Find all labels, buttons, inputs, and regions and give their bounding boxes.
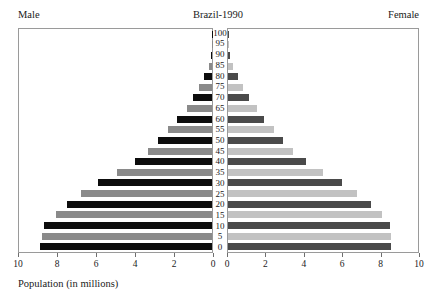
axis-tick: [304, 253, 305, 257]
male-bar-age-55: [168, 126, 212, 133]
bar-row: [19, 220, 212, 231]
bar-row: [228, 40, 418, 51]
male-bar-age-75: [199, 84, 212, 91]
female-bar-age-50: [228, 137, 283, 144]
female-bar-age-45: [228, 148, 293, 155]
axis-tick: [213, 253, 214, 257]
age-tick-label: 45: [213, 146, 227, 157]
bar-row: [19, 178, 212, 189]
axis-tick: [265, 253, 266, 257]
female-bar-age-80: [228, 73, 238, 80]
bar-row: [228, 188, 418, 199]
female-bar-age-15: [228, 211, 382, 218]
male-bar-age-35: [117, 169, 212, 176]
age-tick-label: 85: [213, 60, 227, 71]
axis-tick: [135, 253, 136, 257]
bar-row: [228, 220, 418, 231]
age-tick-label: 65: [213, 103, 227, 114]
female-bar-age-30: [228, 179, 342, 186]
male-axis-tick-labels: 1086420: [18, 258, 213, 272]
female-bar-age-40: [228, 158, 306, 165]
female-bar-age-55: [228, 126, 274, 133]
bar-row: [228, 241, 418, 252]
bar-row: [228, 146, 418, 157]
male-bar-age-5: [42, 233, 212, 240]
axis-tick: [342, 253, 343, 257]
chart-title: Brazil-1990: [0, 9, 436, 21]
bar-row: [19, 103, 212, 114]
bar-row: [228, 210, 418, 221]
axis-tick-label: 4: [133, 258, 138, 270]
female-bar-age-65: [228, 105, 257, 112]
bar-row: [228, 29, 418, 40]
female-bar-age-85: [228, 63, 233, 70]
female-bar-age-25: [228, 190, 357, 197]
axis-tick: [18, 253, 19, 257]
female-bar-age-95: [228, 41, 229, 48]
age-tick-label: 55: [213, 124, 227, 135]
bar-row: [19, 156, 212, 167]
bar-row: [19, 231, 212, 242]
male-bar-age-45: [148, 148, 212, 155]
bar-row: [228, 50, 418, 61]
axis-tick-label: 6: [340, 258, 345, 270]
bar-row: [19, 167, 212, 178]
age-tick-label: 20: [213, 199, 227, 210]
age-tick-label: 60: [213, 114, 227, 125]
bar-row: [19, 61, 212, 72]
age-tick-label: 35: [213, 167, 227, 178]
age-tick-label: 10: [213, 221, 227, 232]
axis-tick: [174, 253, 175, 257]
axis-tick-label: 6: [94, 258, 99, 270]
age-tick-label: 75: [213, 82, 227, 93]
female-bar-age-60: [228, 116, 264, 123]
axis-tick-label: 8: [378, 258, 383, 270]
x-axis-caption: Population (in millions): [18, 278, 118, 290]
axis-tick-label: 0: [211, 258, 216, 270]
female-bar-age-70: [228, 94, 249, 101]
male-bar-age-40: [135, 158, 212, 165]
male-bar-age-90: [211, 52, 212, 59]
bar-row: [19, 146, 212, 157]
bar-row: [19, 40, 212, 51]
bar-row: [19, 71, 212, 82]
male-bar-age-50: [158, 137, 212, 144]
age-tick-label: 90: [213, 49, 227, 60]
axis-tick-label: 4: [301, 258, 306, 270]
bar-row: [19, 241, 212, 252]
bar-row: [228, 135, 418, 146]
axis-tick: [381, 253, 382, 257]
male-bar-age-60: [177, 116, 212, 123]
axis-tick-label: 8: [55, 258, 60, 270]
female-plot-panel: [227, 28, 419, 253]
bar-row: [228, 125, 418, 136]
female-bar-age-20: [228, 201, 371, 208]
bar-row: [228, 178, 418, 189]
age-tick-label: 5: [213, 232, 227, 243]
axis-tick-label: 2: [172, 258, 177, 270]
bar-row: [228, 114, 418, 125]
axis-tick-label: 2: [263, 258, 268, 270]
bar-row: [228, 93, 418, 104]
male-bar-rows: [19, 29, 212, 252]
axis-tick: [96, 253, 97, 257]
female-bar-age-35: [228, 169, 323, 176]
age-tick-label: 25: [213, 189, 227, 200]
female-bar-age-90: [228, 52, 230, 59]
male-bar-age-80: [204, 73, 212, 80]
bar-row: [19, 29, 212, 40]
bar-row: [228, 231, 418, 242]
bar-row: [19, 125, 212, 136]
bar-row: [228, 199, 418, 210]
age-tick-label: 30: [213, 178, 227, 189]
male-bar-age-70: [193, 94, 212, 101]
female-bar-rows: [228, 29, 418, 252]
axis-tick-label: 10: [13, 258, 23, 270]
male-bar-age-15: [56, 211, 212, 218]
bar-row: [228, 103, 418, 114]
female-bar-age-10: [228, 222, 390, 229]
axis-tick: [419, 253, 420, 257]
age-tick-label: 70: [213, 92, 227, 103]
male-bar-age-30: [98, 179, 212, 186]
age-tick-label: 0: [213, 242, 227, 253]
